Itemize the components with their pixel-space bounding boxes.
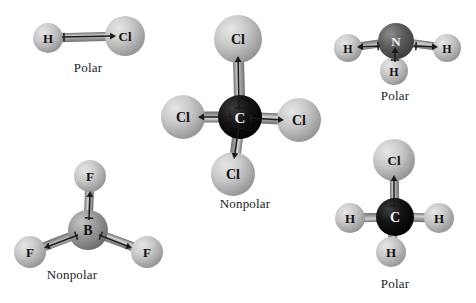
atom-h: H — [424, 203, 454, 233]
atom-c: C — [376, 198, 414, 236]
polarity-label-ammonia: Polar — [340, 88, 450, 104]
atom-h: H — [433, 34, 461, 62]
atom-cl: Cl — [373, 139, 415, 181]
atom-sphere — [14, 236, 46, 268]
atom-n: N — [378, 23, 414, 59]
molecule-chloromethane: ClHHHC — [330, 140, 470, 275]
atom-f: F — [14, 236, 46, 268]
atom-sphere — [214, 15, 262, 63]
molecule-boron-trifluoride: FFFB — [12, 158, 172, 268]
polarity-label-hydrogen-chloride: Polar — [38, 60, 138, 76]
molecule-carbon-tetrachloride: ClClClClC — [160, 12, 320, 197]
atom-sphere — [376, 237, 406, 267]
atom-sphere — [131, 236, 163, 268]
atom-h: H — [380, 57, 408, 85]
atom-sphere — [335, 203, 365, 233]
atom-sphere — [74, 160, 106, 192]
atom-h: H — [33, 23, 63, 53]
atom-cl: Cl — [211, 152, 255, 196]
atom-sphere — [380, 57, 408, 85]
atom-sphere — [378, 23, 414, 59]
dipole-shaft — [89, 196, 90, 220]
atom-f: F — [131, 236, 163, 268]
atom-sphere — [424, 203, 454, 233]
polarity-label-boron-trifluoride: Nonpolar — [12, 267, 132, 283]
polarity-label-carbon-tetrachloride: Nonpolar — [185, 196, 305, 212]
atom-sphere — [376, 198, 414, 236]
dipole-shaft — [238, 61, 239, 110]
atom-f: F — [74, 160, 106, 192]
dipole-shaft — [62, 36, 111, 37]
atom-sphere — [373, 139, 415, 181]
atom-sphere — [68, 210, 108, 250]
atom-group: HHHN — [334, 23, 461, 85]
atom-h: H — [376, 237, 406, 267]
atom-group: ClClClClC — [161, 15, 321, 196]
atom-h: H — [335, 203, 365, 233]
atom-h: H — [334, 34, 362, 62]
atom-sphere — [211, 152, 255, 196]
atom-cl: Cl — [214, 15, 262, 63]
molecule-ammonia: HHHN — [330, 14, 470, 92]
dipole-shaft — [414, 46, 433, 47]
atom-sphere — [433, 34, 461, 62]
atom-b: B — [68, 210, 108, 250]
polarity-label-chloromethane: Polar — [340, 276, 450, 292]
molecule-hydrogen-chloride: HCl — [20, 8, 160, 68]
atom-sphere — [33, 23, 63, 53]
atom-sphere — [334, 34, 362, 62]
molecular-polarity-figure: HClPolarClClClClCNonpolarHHHNPolarFFFBNo… — [0, 0, 476, 303]
